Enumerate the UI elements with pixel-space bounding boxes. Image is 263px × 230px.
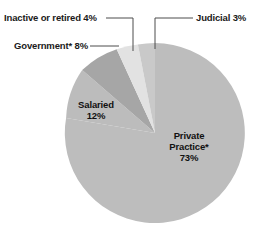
slice-label-private-practice: Private Practice* 73% <box>158 130 220 163</box>
slice-label-salaried-value: 12% <box>67 110 125 121</box>
slice-label-private-practice-name-2: Practice* <box>158 141 220 152</box>
slice-label-government: Government* 8% <box>14 40 88 51</box>
slice-label-private-practice-name-1: Private <box>158 130 220 141</box>
pie-chart-graphic <box>0 0 263 230</box>
slice-label-salaried: Salaried 12% <box>67 99 125 121</box>
slice-label-private-practice-value: 73% <box>158 152 220 163</box>
slice-label-salaried-name: Salaried <box>67 99 125 110</box>
slice-label-judicial: Judicial 3% <box>196 12 246 23</box>
slice-label-inactive-retired: Inactive or retired 4% <box>4 12 97 23</box>
pie-chart-figure: Inactive or retired 4% Judicial 3% Gover… <box>0 0 263 230</box>
